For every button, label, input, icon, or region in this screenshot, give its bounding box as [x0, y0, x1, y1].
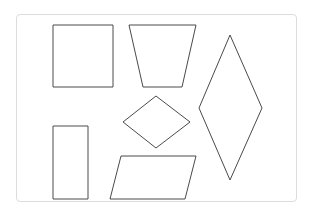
trapezoid-shape: [129, 25, 196, 87]
small-rhombus-shape: [123, 96, 190, 148]
parallelogram-shape: [110, 156, 196, 199]
rectangle-shape: [53, 126, 88, 199]
large-rhombus-shape: [199, 35, 262, 180]
shapes-canvas: [0, 0, 315, 221]
square-shape: [53, 25, 113, 87]
